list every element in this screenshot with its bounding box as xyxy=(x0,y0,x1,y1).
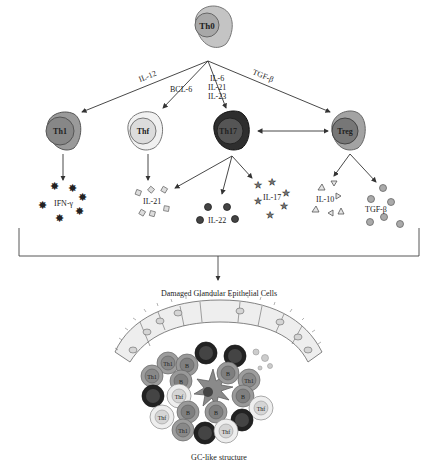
il17-label: IL-17 xyxy=(263,193,281,202)
svg-text:Thf: Thf xyxy=(158,415,167,421)
svg-text:Thf: Thf xyxy=(175,394,184,400)
svg-text:✸: ✸ xyxy=(75,205,84,217)
il23-signal: IL-23 xyxy=(208,92,226,101)
svg-text:★: ★ xyxy=(268,177,276,187)
svg-text:★: ★ xyxy=(280,201,288,211)
svg-text:★: ★ xyxy=(254,196,262,206)
gc-like-structure: Th1 B Th1 B B Th1 Thf xyxy=(141,342,273,444)
tgfb-label: TGF-β xyxy=(365,205,387,214)
svg-text:Th1: Th1 xyxy=(244,378,254,384)
svg-text:★: ★ xyxy=(266,210,274,220)
il6-signal: IL-6 xyxy=(210,74,224,83)
th17-cell: Th17 xyxy=(214,111,249,150)
svg-text:B: B xyxy=(214,410,218,416)
tissue-title: Damaged Glandular Epithelial Cells xyxy=(161,289,277,298)
svg-text:Thf: Thf xyxy=(257,406,266,412)
svg-text:✸: ✸ xyxy=(55,212,64,224)
bcl6-signal: BCL-6 xyxy=(170,85,192,94)
svg-text:B: B xyxy=(186,410,190,416)
svg-text:Th1: Th1 xyxy=(178,428,188,434)
treg-cell: Treg xyxy=(332,111,365,150)
th17-label: Th17 xyxy=(219,127,237,136)
th0-cell: Th0 xyxy=(195,6,232,47)
il12-signal: IL-12 xyxy=(137,69,157,84)
thf-cell: Thf xyxy=(128,112,163,150)
thf-label: Thf xyxy=(137,127,150,136)
svg-text:B: B xyxy=(185,363,189,369)
svg-text:Thf: Thf xyxy=(222,429,231,435)
treg-label: Treg xyxy=(337,127,353,136)
svg-text:✸: ✸ xyxy=(50,180,59,192)
cytokine-arrows xyxy=(63,154,376,194)
immune-diagram: Th0 IL-12 BCL-6 IL-6 IL-21 IL-23 TGF-β T… xyxy=(0,0,438,468)
svg-text:✸: ✸ xyxy=(68,182,77,194)
svg-text:Th1: Th1 xyxy=(147,374,157,380)
svg-text:★: ★ xyxy=(282,188,290,198)
svg-text:✸: ✸ xyxy=(78,191,87,203)
gc-caption: GC-like structure xyxy=(191,453,247,462)
il22-label: IL-22 xyxy=(208,216,226,225)
th0-label: Th0 xyxy=(199,21,215,31)
convergence-bracket xyxy=(19,228,419,280)
il10-label: IL-10 xyxy=(316,195,334,204)
svg-text:B: B xyxy=(241,394,245,400)
il21-signal: IL-21 xyxy=(208,83,226,92)
differentiation-arrows xyxy=(82,61,330,112)
il21-label: IL-21 xyxy=(143,197,161,206)
th1-label: Th1 xyxy=(53,127,67,136)
svg-text:★: ★ xyxy=(254,180,262,190)
th1-cell: Th1 xyxy=(46,112,81,150)
tgfb-signal: TGF-β xyxy=(251,68,275,85)
ifng-label: IFN-γ xyxy=(54,199,74,208)
svg-text:✸: ✸ xyxy=(38,199,47,211)
svg-text:B: B xyxy=(226,371,230,377)
epithelial-layer xyxy=(115,294,322,362)
svg-text:Th1: Th1 xyxy=(163,361,173,367)
